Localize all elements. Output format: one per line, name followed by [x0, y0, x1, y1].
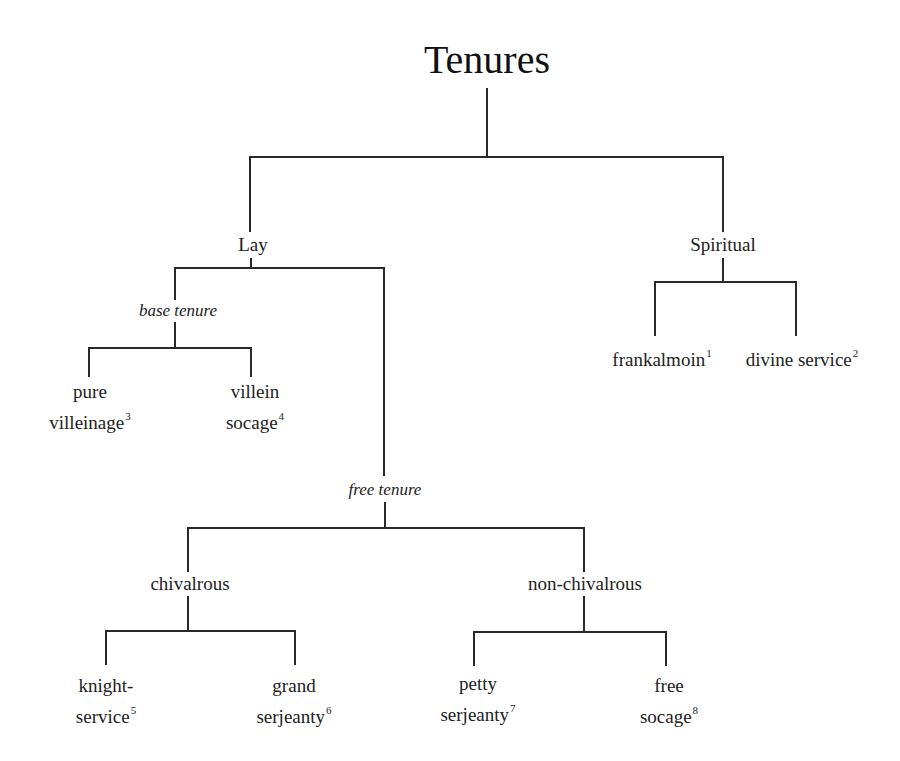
node-chivalrous: chivalrous — [150, 571, 229, 597]
connector-to-grand-serjeanty — [294, 630, 296, 665]
leaf-knight-service: knight- service5 — [76, 673, 136, 730]
connector-to-pure-villeinage — [88, 347, 90, 377]
connector-to-petty-serjeanty — [473, 631, 475, 666]
connector-spiritual-down — [722, 258, 724, 283]
leaf-line1: knight- — [76, 673, 136, 699]
connector-non-chivalrous-down — [583, 596, 585, 633]
footnote-marker: 7 — [510, 702, 516, 714]
connector-to-chivalrous — [187, 527, 189, 572]
footnote-marker: 1 — [706, 347, 712, 359]
footnote-marker: 5 — [131, 704, 137, 716]
connector-non-chivalrous-horizontal — [473, 631, 667, 633]
connector-to-non-chivalrous — [583, 527, 585, 572]
footnote-marker: 8 — [693, 704, 699, 716]
node-spiritual: Spiritual — [690, 232, 755, 258]
leaf-line2: socage4 — [226, 405, 284, 436]
connector-to-divine-service — [795, 281, 797, 336]
leaf-line2: serjeanty7 — [440, 697, 515, 728]
footnote-marker: 2 — [853, 347, 859, 359]
leaf-line1: grand — [256, 673, 331, 699]
footnote-marker: 3 — [125, 410, 131, 422]
connector-to-knight-service — [105, 630, 107, 665]
leaf-line1: divine service2 — [746, 342, 859, 373]
leaf-pure-villeinage: pure villeinage3 — [49, 379, 130, 436]
leaf-text: socage — [640, 706, 692, 727]
footnote-marker: 6 — [326, 704, 332, 716]
root-node-tenures: Tenures — [424, 38, 550, 82]
connector-to-lay — [249, 156, 251, 232]
leaf-divine-service: divine service2 — [746, 342, 859, 373]
tenures-tree-diagram: Tenures Lay base tenure pure villeinage3… — [0, 0, 900, 761]
leaf-line2: socage8 — [640, 699, 698, 730]
node-base-tenure: base tenure — [139, 298, 217, 324]
leaf-villein-socage: villein socage4 — [226, 379, 284, 436]
leaf-text: villeinage — [49, 412, 124, 433]
leaf-line1: free — [640, 673, 698, 699]
leaf-text: divine service — [746, 349, 852, 370]
leaf-free-socage: free socage8 — [640, 673, 698, 730]
connector-to-villein-socage — [250, 347, 252, 377]
leaf-line1: pure — [49, 379, 130, 405]
connector-base-horizontal — [88, 347, 252, 349]
leaf-text: serjeanty — [256, 706, 325, 727]
connector-spiritual-horizontal — [654, 281, 797, 283]
leaf-line2: villeinage3 — [49, 405, 130, 436]
connector-free-down — [384, 502, 386, 528]
connector-to-free-tenure — [383, 267, 385, 476]
leaf-line2: serjeanty6 — [256, 699, 331, 730]
node-free-tenure: free tenure — [349, 477, 422, 503]
connector-to-frankalmoin — [654, 281, 656, 336]
connector-to-free-socage — [665, 631, 667, 666]
leaf-text: socage — [226, 412, 278, 433]
node-non-chivalrous: non-chivalrous — [528, 571, 642, 597]
leaf-text: service — [76, 706, 130, 727]
connector-free-horizontal — [187, 527, 585, 529]
connector-to-spiritual — [722, 156, 724, 232]
leaf-line1: petty — [440, 671, 515, 697]
leaf-line1: frankalmoin1 — [612, 342, 711, 373]
connector-to-base-tenure — [174, 267, 176, 300]
leaf-frankalmoin: frankalmoin1 — [612, 342, 711, 373]
connector-chivalrous-down — [187, 596, 189, 632]
connector-lay-horizontal — [174, 267, 385, 269]
node-lay: Lay — [238, 232, 268, 258]
connector-chivalrous-horizontal — [105, 630, 296, 632]
leaf-grand-serjeanty: grand serjeanty6 — [256, 673, 331, 730]
connector-root-down — [486, 88, 488, 158]
connector-base-down — [174, 322, 176, 349]
leaf-text: frankalmoin — [612, 349, 705, 370]
leaf-line1: villein — [226, 379, 284, 405]
connector-root-horizontal — [249, 156, 724, 158]
leaf-text: serjeanty — [440, 704, 509, 725]
leaf-line2: service5 — [76, 699, 136, 730]
leaf-petty-serjeanty: petty serjeanty7 — [440, 671, 515, 728]
footnote-marker: 4 — [279, 410, 285, 422]
